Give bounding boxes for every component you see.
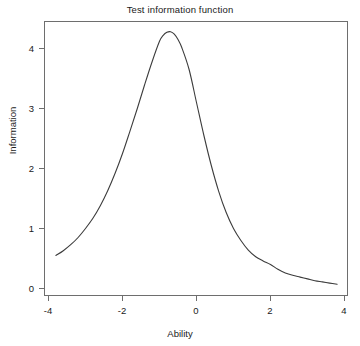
y-axis-ticks <box>39 49 45 289</box>
x-tick-label-4: 4 <box>341 305 346 316</box>
information-curve <box>56 32 337 285</box>
y-tick-label-4: 4 <box>20 43 34 54</box>
x-tick-label-neg4: -4 <box>44 305 52 316</box>
x-tick-label-neg2: -2 <box>118 305 126 316</box>
y-tick-label-2: 2 <box>20 163 34 174</box>
x-tick-label-2: 2 <box>267 305 272 316</box>
y-tick-label-3: 3 <box>20 103 34 114</box>
x-tick-label-0: 0 <box>193 305 198 316</box>
y-tick-label-1: 1 <box>20 223 34 234</box>
plot-area-svg <box>0 0 360 346</box>
plot-box-border <box>45 22 348 296</box>
x-axis-ticks <box>49 296 345 302</box>
y-axis-label: Information <box>7 81 18 181</box>
chart-figure: Test information function 0 1 2 3 4 -4 -… <box>0 0 360 346</box>
y-tick-label-0: 0 <box>20 283 34 294</box>
x-axis-label: Ability <box>0 328 360 339</box>
